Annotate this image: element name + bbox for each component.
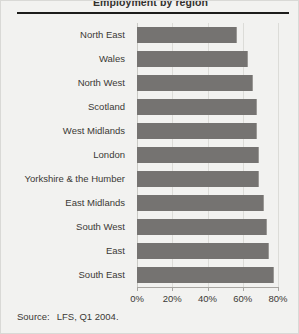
category-label: South West <box>76 219 125 235</box>
bar-row <box>137 99 257 115</box>
category-label: London <box>93 147 125 163</box>
tick-mark-60pct <box>243 287 244 291</box>
bar-row <box>137 147 259 163</box>
tick-mark-80pct <box>278 287 279 291</box>
category-label: East <box>106 243 125 259</box>
bar <box>137 51 248 67</box>
bar-row <box>137 123 257 139</box>
gridline-80pct <box>278 23 279 287</box>
tick-label-60pct: 60% <box>233 293 252 304</box>
tick-label-20pct: 20% <box>163 293 182 304</box>
source-note: Source:LFS, Q1 2004. <box>17 311 119 322</box>
tick-mark-20pct <box>172 287 173 291</box>
tick-label-0pct: 0% <box>130 293 144 304</box>
bar <box>137 75 253 91</box>
chart-figure: Employment by region North EastWalesNort… <box>0 0 299 334</box>
bar <box>137 243 269 259</box>
bar-row <box>137 27 237 43</box>
bar-row <box>137 51 248 67</box>
category-label: South East <box>79 267 125 283</box>
category-label: West Midlands <box>63 123 125 139</box>
bar <box>137 219 267 235</box>
source-label: Source: <box>17 311 50 322</box>
bar <box>137 195 264 211</box>
bar-row <box>137 171 259 187</box>
category-label: Yorkshire & the Humber <box>24 171 125 187</box>
bar-row <box>137 75 253 91</box>
category-label: North East <box>80 27 125 43</box>
bar <box>137 267 274 283</box>
bar <box>137 123 257 139</box>
category-label: East Midlands <box>65 195 125 211</box>
category-label: Wales <box>99 51 125 67</box>
tick-label-80pct: 80% <box>268 293 287 304</box>
chart-title: Employment by region <box>1 0 299 8</box>
bar-row <box>137 195 264 211</box>
bar <box>137 27 237 43</box>
tick-mark-40pct <box>208 287 209 291</box>
bar <box>137 99 257 115</box>
tick-label-40pct: 40% <box>198 293 217 304</box>
tick-mark-0pct <box>137 287 138 291</box>
category-label: Scotland <box>88 99 125 115</box>
plot-area <box>137 23 289 287</box>
category-axis-labels: North EastWalesNorth WestScotlandWest Mi… <box>1 23 131 287</box>
source-text: LFS, Q1 2004. <box>57 311 119 322</box>
category-label: North West <box>78 75 125 91</box>
bar-row <box>137 267 274 283</box>
bar <box>137 171 259 187</box>
bar <box>137 147 259 163</box>
bar-row <box>137 219 267 235</box>
bar-row <box>137 243 269 259</box>
title-divider-rule <box>17 12 289 14</box>
